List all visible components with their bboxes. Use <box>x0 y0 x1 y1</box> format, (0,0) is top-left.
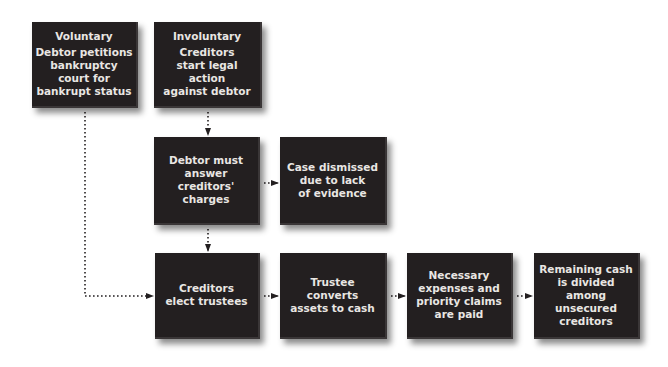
node-text: start legal action <box>157 59 257 85</box>
node-text: elect trustees <box>165 295 247 308</box>
node-text: among <box>566 289 606 302</box>
node-voluntary: Voluntary Debtor petitions bankruptcy co… <box>32 22 138 108</box>
node-text: Debtor must <box>169 154 243 167</box>
node-text: of evidence <box>298 187 366 200</box>
node-text: answer <box>185 167 228 180</box>
node-text: unsecured <box>555 302 617 315</box>
node-expenses-paid: Necessary expenses and priority claims a… <box>407 253 513 339</box>
node-text: priority claims <box>416 295 502 308</box>
node-text: Creditors <box>179 282 234 295</box>
node-elect-trustees: Creditors elect trustees <box>155 253 260 339</box>
node-text: is divided <box>557 276 614 289</box>
node-text: Creditors <box>180 46 235 59</box>
node-text: creditors' <box>178 180 235 193</box>
node-text: Debtor petitions <box>35 46 132 59</box>
node-text: Trustee converts <box>283 276 382 302</box>
node-involuntary: Involuntary Creditors start legal action… <box>154 22 262 108</box>
node-text: charges <box>183 193 230 206</box>
node-text: Remaining cash <box>539 263 633 276</box>
node-debtor-answer: Debtor must answer creditors' charges <box>154 137 260 225</box>
node-text: against debtor <box>163 85 250 98</box>
node-text: due to lack <box>300 174 366 187</box>
node-text: Necessary <box>429 269 490 282</box>
node-text: court for <box>58 72 110 85</box>
node-text: expenses and <box>418 282 499 295</box>
node-trustee-converts: Trustee converts assets to cash <box>280 253 387 339</box>
node-text: assets to cash <box>290 302 375 315</box>
node-title: Involuntary <box>173 30 241 43</box>
node-text: bankruptcy <box>50 59 117 72</box>
connector-voluntary-to-elect <box>85 112 153 296</box>
node-title: Voluntary <box>55 30 112 43</box>
node-text: bankrupt status <box>36 85 131 98</box>
node-text: are paid <box>435 308 484 321</box>
node-cash-divided: Remaining cash is divided among unsecure… <box>534 253 640 339</box>
node-case-dismissed: Case dismissed due to lack of evidence <box>280 137 387 225</box>
node-text: Case dismissed <box>287 161 378 174</box>
node-text: creditors <box>559 315 612 328</box>
